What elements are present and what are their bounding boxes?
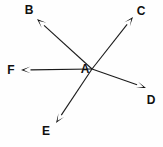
arrow-head-d — [136, 82, 146, 88]
point-label-f: F — [7, 64, 14, 76]
point-label-d: D — [147, 94, 156, 106]
vector-shaft-d — [92, 69, 137, 85]
point-label-c: C — [137, 5, 146, 17]
vector-shaft-c — [92, 24, 127, 69]
point-label-b: B — [25, 4, 34, 16]
vector-diagram: ABCDEF — [0, 0, 163, 147]
arrow-head-c — [124, 17, 133, 27]
arrow-head-e — [56, 113, 64, 123]
point-label-e: E — [42, 125, 50, 137]
point-label-a: A — [81, 63, 90, 75]
arrow-head-f — [21, 66, 31, 73]
